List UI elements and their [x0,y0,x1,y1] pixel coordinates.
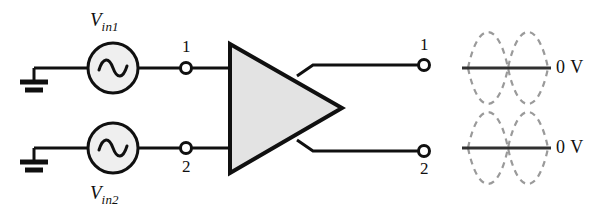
input-terminal-1-label: 1 [182,38,191,55]
ground-bottom [20,148,48,170]
output-terminal-1[interactable] [419,60,430,71]
source-vin1-label: Vin1 [90,10,119,33]
source-vin1 [88,43,138,93]
amplifier-triangle[interactable] [230,44,342,173]
source-vin2 [88,123,138,173]
input-terminal-1[interactable] [181,63,192,74]
source-vin2-subscript: in2 [102,192,119,207]
ground-top [20,68,48,90]
output-terminal-2-label: 2 [420,160,429,177]
source-vin1-symbol: V [90,9,102,30]
output-terminal-1-label: 1 [420,36,429,53]
output-waveform-1 [462,32,551,104]
source-vin1-subscript: in1 [102,19,119,34]
output-waveform-2 [462,112,551,184]
waveform-2-axis-label: 0 V [556,138,584,156]
source-vin2-symbol: V [90,182,102,203]
input-terminal-2[interactable] [181,143,192,154]
output-terminal-2[interactable] [419,146,430,157]
waveform-1-axis-label: 0 V [556,58,584,76]
circuit-diagram: Vin1 Vin2 1 2 1 2 0 V 0 V [0,0,595,222]
input-terminal-2-label: 2 [182,158,191,175]
wire-amp-to-output1 [297,65,419,76]
source-vin2-label: Vin2 [90,183,119,206]
wire-amp-to-output2 [297,140,419,151]
